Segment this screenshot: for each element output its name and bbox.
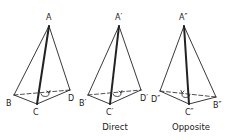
vertex-label-c: C — [33, 108, 39, 117]
arrowhead-icon — [181, 91, 184, 94]
edge-ad — [119, 26, 141, 90]
edge-bc — [88, 95, 110, 104]
vertex-label-a-prime: A′ — [115, 13, 122, 22]
caption-direct: Direct — [102, 122, 128, 132]
vertex-label-d-double-prime: D″ — [151, 95, 160, 104]
diagram-svg: A B C D A′ B′ C′ D′ Direct — [0, 0, 234, 140]
vertex-label-d: D — [68, 94, 74, 103]
edge-bd-hidden — [88, 90, 141, 95]
vertex-label-a-double-prime: A″ — [179, 13, 187, 22]
edge-ac — [184, 26, 189, 104]
edge-bc — [14, 95, 37, 104]
edge-ad — [49, 26, 70, 90]
figure-opposite — [160, 26, 216, 104]
edge-bd-hidden — [14, 90, 70, 95]
vertex-label-d-prime: D′ — [140, 94, 148, 103]
congruence-diagram: A B C D A′ B′ C′ D′ Direct — [0, 0, 234, 140]
figure-direct — [88, 26, 141, 104]
vertex-label-b: B — [6, 99, 12, 108]
edge-cd — [37, 90, 70, 104]
vertex-label-c-prime: C′ — [106, 108, 114, 117]
vertex-label-c-double-prime: C″ — [185, 108, 194, 117]
orientation-arrow-icon — [41, 93, 49, 97]
figure-original — [14, 26, 70, 104]
vertex-label-b-double-prime: B″ — [213, 101, 221, 110]
edge-cb — [189, 97, 216, 104]
orientation-arrow-icon — [113, 93, 121, 97]
vertex-label-a: A — [46, 13, 52, 22]
vertex-label-b-prime: B′ — [79, 99, 86, 108]
caption-opposite: Opposite — [172, 122, 210, 132]
edge-ad — [160, 26, 184, 91]
